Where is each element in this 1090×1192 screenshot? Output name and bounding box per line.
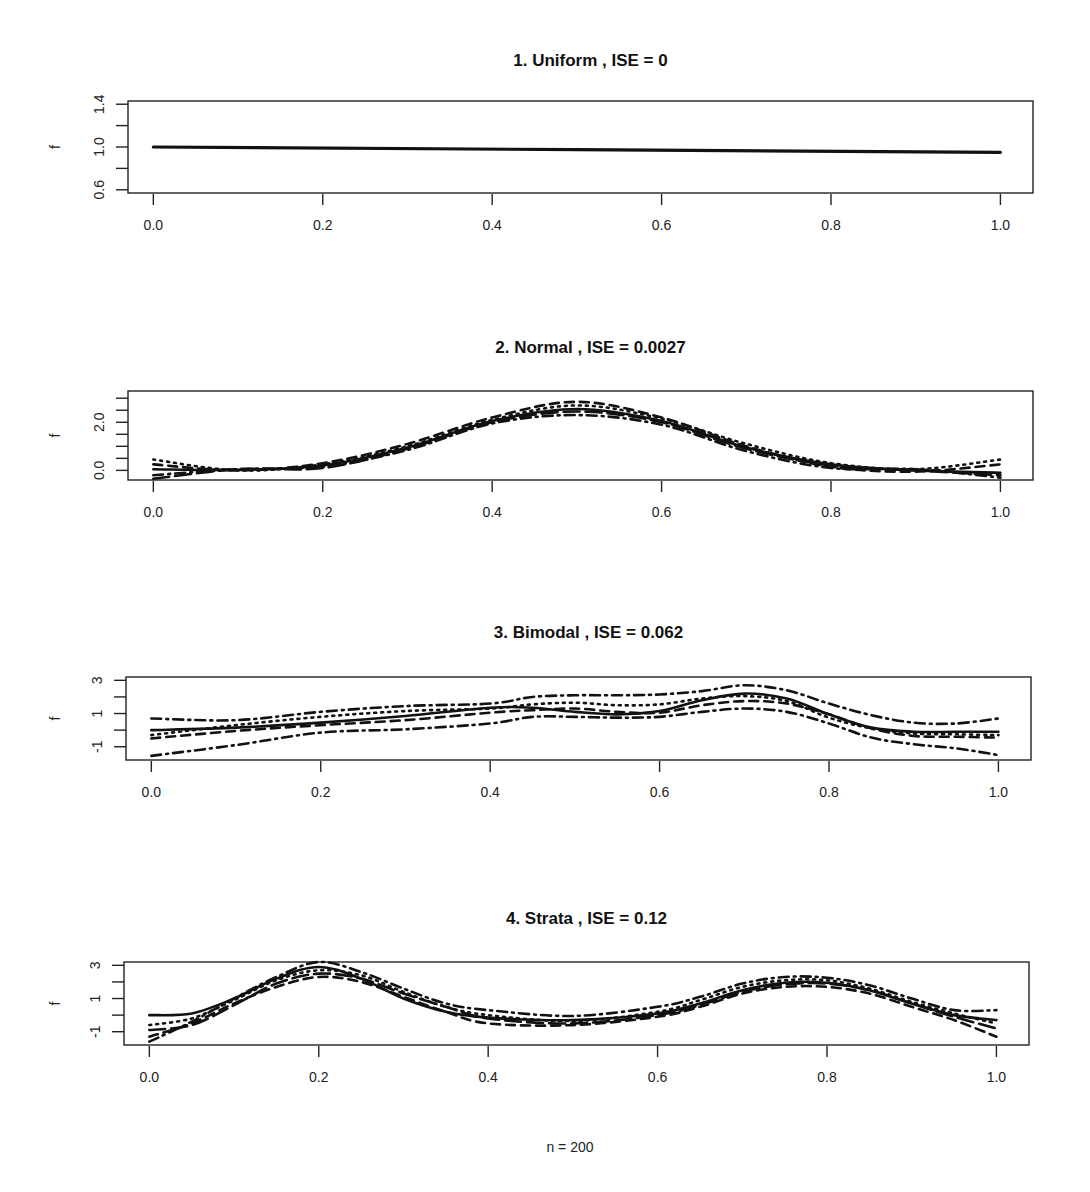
x-tick-label: 0.0 (144, 504, 164, 520)
panel-strata: 4. Strata , ISE = 0.12 0.00.20.40.60.81.… (47, 909, 1029, 1085)
panel-normal: 2. Normal , ISE = 0.0027 0.00.20.40.60.8… (47, 338, 1033, 520)
x-tick-label: 0.6 (652, 217, 672, 233)
x-tick-label: 0.8 (819, 784, 839, 800)
x-axis: 0.00.20.40.60.81.0 (142, 761, 1009, 800)
x-tick-label: 0.8 (821, 217, 841, 233)
y-axis-label: f (47, 1001, 63, 1005)
y-axis-label: f (47, 145, 63, 149)
y-axis: -113f (47, 961, 124, 1038)
x-tick-label: 0.6 (652, 504, 672, 520)
x-tick-label: 1.0 (991, 504, 1011, 520)
density-curve (153, 147, 1000, 152)
panel-bimodal: 3. Bimodal , ISE = 0.062 0.00.20.40.60.8… (47, 623, 1031, 800)
x-axis: 0.00.20.40.60.81.0 (144, 194, 1011, 233)
series-group (151, 685, 998, 756)
y-axis: 0.02.0f (47, 398, 128, 480)
x-tick-label: 0.2 (313, 217, 333, 233)
panel-title: 3. Bimodal , ISE = 0.062 (494, 623, 683, 642)
density-curve (151, 694, 998, 733)
x-tick-label: 1.0 (991, 217, 1011, 233)
series-group (153, 402, 1000, 479)
x-tick-label: 0.0 (144, 217, 164, 233)
y-axis-label: f (47, 433, 63, 437)
y-tick-label: 0.6 (91, 180, 107, 200)
panel-uniform: 1. Uniform , ISE = 0 0.00.20.40.60.81.00… (47, 51, 1033, 233)
x-tick-label: 0.2 (309, 1069, 329, 1085)
density-curve (153, 409, 1000, 473)
y-tick-label: 2.0 (91, 412, 107, 432)
y-tick-label: 1.4 (91, 94, 107, 114)
y-tick-label: 1 (89, 709, 105, 717)
x-tick-label: 0.4 (478, 1069, 498, 1085)
figure: 1. Uniform , ISE = 0 0.00.20.40.60.81.00… (0, 0, 1090, 1192)
x-tick-label: 0.2 (311, 784, 331, 800)
panel-title: 4. Strata , ISE = 0.12 (506, 909, 667, 928)
series-group (149, 962, 996, 1042)
sample-size-label: n = 200 (546, 1139, 593, 1155)
y-tick-label: -1 (87, 1025, 103, 1038)
x-tick-label: 0.6 (648, 1069, 668, 1085)
x-tick-label: 0.4 (482, 504, 502, 520)
x-tick-label: 0.8 (817, 1069, 837, 1085)
y-tick-label: 0.0 (91, 460, 107, 480)
x-tick-label: 0.4 (482, 217, 502, 233)
y-axis-label: f (47, 716, 63, 720)
x-tick-label: 0.0 (142, 784, 162, 800)
y-tick-label: 1 (87, 994, 103, 1002)
series-group (153, 147, 1000, 152)
y-axis: 0.61.01.4f (47, 94, 128, 199)
x-tick-label: 0.8 (821, 504, 841, 520)
x-tick-label: 0.0 (140, 1069, 160, 1085)
y-axis: -113f (47, 676, 126, 753)
y-tick-label: -1 (89, 740, 105, 753)
y-tick-label: 3 (89, 676, 105, 684)
x-tick-label: 1.0 (989, 784, 1009, 800)
density-curve (153, 405, 1000, 470)
density-curve (149, 962, 996, 1042)
x-tick-label: 1.0 (987, 1069, 1007, 1085)
panel-title: 2. Normal , ISE = 0.0027 (495, 338, 685, 357)
x-tick-label: 0.4 (480, 784, 500, 800)
plot-frame (124, 962, 1029, 1045)
x-tick-label: 0.2 (313, 504, 333, 520)
panel-title: 1. Uniform , ISE = 0 (513, 51, 667, 70)
x-tick-label: 0.6 (650, 784, 670, 800)
y-tick-label: 1.0 (91, 137, 107, 157)
x-axis: 0.00.20.40.60.81.0 (140, 1046, 1007, 1085)
x-axis: 0.00.20.40.60.81.0 (144, 481, 1011, 520)
y-tick-label: 3 (87, 961, 103, 969)
